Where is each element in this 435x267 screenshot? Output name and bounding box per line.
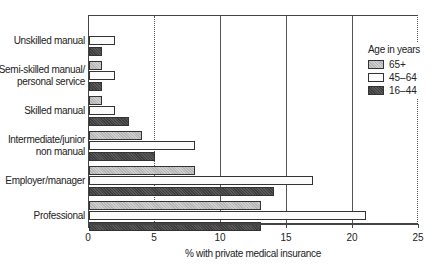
x-tick [352,224,353,228]
x-tick [88,224,89,228]
gridline [352,16,353,224]
legend-title: Age in years [368,44,420,55]
x-tick-label: 10 [210,232,230,243]
category-label: Semi-skilled manual/personal service [0,64,85,88]
bar [89,131,142,140]
category-label: Skilled manual [24,105,85,117]
bar [89,152,155,161]
category-label: Unskilled manual [14,35,85,47]
bar [89,141,195,150]
x-axis-label: % with private medical insurance [88,248,418,259]
bar [89,211,366,220]
bar [89,187,274,196]
legend-swatch [368,73,384,82]
x-tick [286,224,287,228]
x-tick [418,224,419,228]
bar [89,166,195,175]
bar [89,117,129,126]
bar [89,82,102,91]
bar [89,61,102,70]
legend: Age in years 65+45–6416–44 [364,42,424,99]
x-tick-label: 5 [144,232,164,243]
legend-label: 65+ [389,59,406,70]
category-label: Professional [34,210,85,222]
x-tick-label: 15 [276,232,296,243]
legend-swatch [368,60,384,69]
bar [89,71,115,80]
legend-label: 16–44 [389,85,417,96]
bar [89,106,115,115]
category-label: Intermediate/juniornon manual [8,134,85,158]
bar-chart: Unskilled manualSemi-skilled manual/pers… [0,0,435,267]
legend-item: 45–64 [368,71,420,84]
x-tick-label: 20 [342,232,362,243]
x-tick [220,224,221,228]
x-axis [88,223,418,225]
x-tick-label: 25 [408,232,428,243]
bar [89,47,102,56]
legend-item: 65+ [368,58,420,71]
bar [89,96,102,105]
legend-swatch [368,86,384,95]
x-tick [154,224,155,228]
bar [89,201,261,210]
category-label: Employer/manager [5,175,85,187]
bar [89,36,115,45]
legend-item: 16–44 [368,84,420,97]
bar [89,176,313,185]
legend-label: 45–64 [389,72,417,83]
x-tick-label: 0 [78,232,98,243]
gridline [286,16,287,224]
